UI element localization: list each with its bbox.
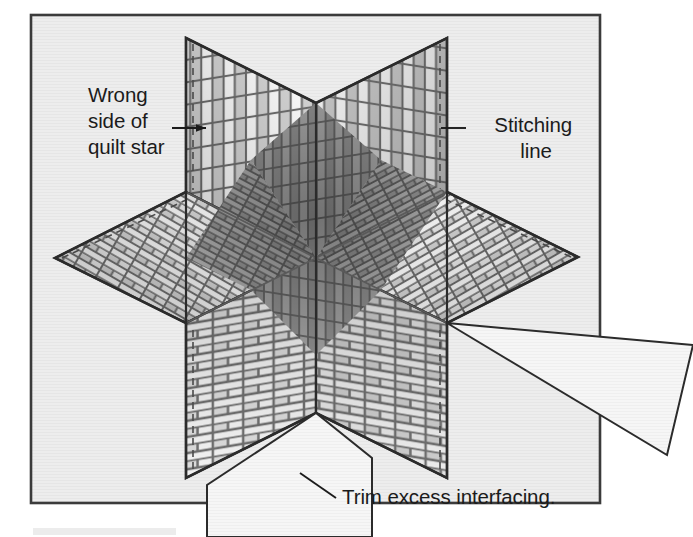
figure-page: Wrong side of quilt star Stitching line … — [0, 0, 693, 537]
label-trim-excess-interfacing: Trim excess interfacing. — [342, 485, 555, 508]
footer-bar — [33, 528, 176, 535]
quilt-star-figure: Wrong side of quilt star Stitching line … — [0, 0, 693, 537]
